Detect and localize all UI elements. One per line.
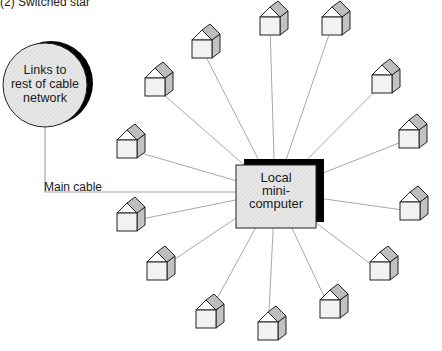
network-label-line-3: network [5,91,85,105]
switched-star-diagram [0,0,442,351]
hub-label: Local mini- computer [236,171,316,210]
hub-label-line-3: computer [236,197,316,210]
house-icon [192,24,220,58]
house-icon [320,284,348,318]
network-node-label: Links to rest of cable network [5,63,85,105]
house-icon [370,246,398,280]
house-icon [258,306,286,340]
house-icon [145,62,173,96]
house-icon [117,124,145,158]
house-icon [322,1,350,35]
network-label-line-2: rest of cable [5,77,85,91]
house-icon [400,186,428,220]
house-icon [260,1,288,35]
house-icon [399,114,427,148]
house-icon [196,294,224,328]
house-icon [117,197,145,231]
house-icon [147,246,175,280]
network-label-line-1: Links to [5,63,85,77]
house-icon [372,59,400,93]
main-cable-label: Main cable [44,180,102,194]
